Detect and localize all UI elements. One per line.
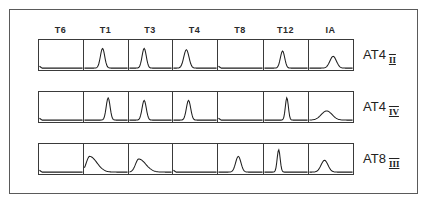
column-label-ia: IA xyxy=(308,25,353,35)
histogram-panel-ia xyxy=(308,143,354,175)
histogram-panel-t12 xyxy=(263,91,309,123)
row-label-main: AT4 xyxy=(363,47,386,62)
histogram-panel-ia xyxy=(308,39,354,71)
column-label-t1: T1 xyxy=(83,25,128,35)
histogram-panel-t3 xyxy=(128,91,173,123)
histogram-panel-t12 xyxy=(263,143,309,175)
histogram-curve xyxy=(39,40,83,70)
histogram-curve xyxy=(264,92,308,122)
row-label-subscript: III xyxy=(389,159,400,169)
histogram-row-at4-iv xyxy=(38,91,353,123)
histogram-curve xyxy=(39,144,83,174)
row-label-subscript: IV xyxy=(389,107,399,117)
histogram-panel-t6 xyxy=(38,39,84,71)
row-label: AT8III xyxy=(363,151,399,166)
histogram-curve xyxy=(218,92,263,122)
histogram-panel-t6 xyxy=(38,143,84,175)
histogram-curve xyxy=(173,40,217,70)
histogram-curve xyxy=(84,144,128,174)
histogram-curve xyxy=(84,92,128,122)
histogram-panel-t1 xyxy=(83,39,129,71)
histogram-curve xyxy=(309,92,353,122)
histogram-panel-ia xyxy=(308,91,354,123)
histogram-panel-t1 xyxy=(83,143,129,175)
row-label-main: AT4 xyxy=(363,99,386,114)
row-label-subscript: II xyxy=(389,55,396,65)
column-label-t3: T3 xyxy=(128,25,172,35)
histogram-panel-t3 xyxy=(128,39,173,71)
histogram-curve xyxy=(173,144,217,174)
histogram-panel-t4 xyxy=(172,39,218,71)
histogram-panel-t8 xyxy=(217,91,264,123)
histogram-curve xyxy=(218,40,263,70)
histogram-row-at4-ii xyxy=(38,39,353,71)
histogram-curve xyxy=(129,40,172,70)
histogram-panel-t6 xyxy=(38,91,84,123)
histogram-curve xyxy=(39,92,83,122)
histogram-panel-t8 xyxy=(217,143,264,175)
histogram-row-at8-iii xyxy=(38,143,353,175)
histogram-panel-t1 xyxy=(83,91,129,123)
histogram-panel-t8 xyxy=(217,39,264,71)
row-label: AT4II xyxy=(363,47,396,62)
histogram-panel-t12 xyxy=(263,39,309,71)
column-label-t4: T4 xyxy=(172,25,217,35)
row-label: AT4IV xyxy=(363,99,399,114)
histogram-panel-t4 xyxy=(172,143,218,175)
histogram-curve xyxy=(84,40,128,70)
histogram-panel-t3 xyxy=(128,143,173,175)
row-label-main: AT8 xyxy=(363,151,386,166)
histogram-curve xyxy=(173,92,217,122)
histogram-panel-t4 xyxy=(172,91,218,123)
histogram-curve xyxy=(309,40,353,70)
column-label-t12: T12 xyxy=(263,25,308,35)
histogram-curve xyxy=(218,144,263,174)
column-label-t6: T6 xyxy=(38,25,83,35)
histogram-curve xyxy=(264,40,308,70)
histogram-curve xyxy=(129,144,172,174)
column-label-t8: T8 xyxy=(217,25,263,35)
histogram-curve xyxy=(129,92,172,122)
histogram-curve xyxy=(264,144,308,174)
histogram-curve xyxy=(309,144,353,174)
